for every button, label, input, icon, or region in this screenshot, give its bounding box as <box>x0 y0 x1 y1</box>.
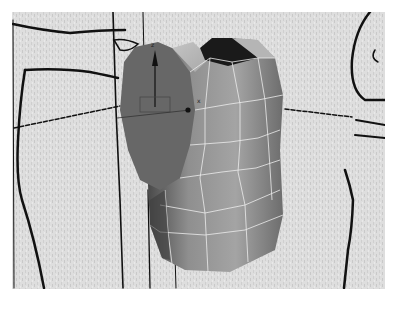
x-axis-handle-icon <box>185 107 190 112</box>
x-axis-label: x <box>197 97 201 104</box>
z-axis-label: z <box>151 41 154 48</box>
3d-viewport[interactable]: z x <box>12 12 385 289</box>
